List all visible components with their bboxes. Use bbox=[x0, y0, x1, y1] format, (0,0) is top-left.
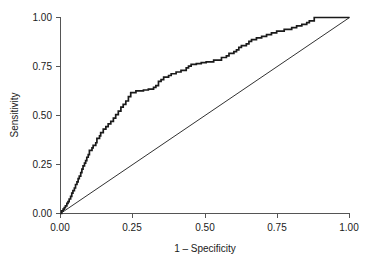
y-tick-label: 0.00 bbox=[33, 208, 53, 219]
y-tick-label: 0.75 bbox=[33, 61, 53, 72]
y-axis-ticks bbox=[56, 18, 60, 214]
x-tick-label: 0.00 bbox=[50, 222, 70, 233]
y-tick-label: 0.25 bbox=[33, 159, 53, 170]
x-tick-label: 0.25 bbox=[122, 222, 142, 233]
x-tick-label: 0.50 bbox=[195, 222, 215, 233]
y-tick-label: 0.50 bbox=[33, 110, 53, 121]
x-axis-title: 1 – Specificity bbox=[174, 243, 236, 254]
roc-chart-svg: 1.00 0.75 0.50 0.25 0.00 0.00 0.25 0.50 … bbox=[0, 0, 369, 266]
x-tick-label: 0.75 bbox=[267, 222, 287, 233]
y-axis-title: Sensitivity bbox=[9, 92, 20, 137]
y-tick-label: 1.00 bbox=[33, 12, 53, 23]
y-axis-tick-labels: 1.00 0.75 0.50 0.25 0.00 bbox=[33, 12, 53, 219]
x-axis-tick-labels: 0.00 0.25 0.50 0.75 1.00 bbox=[50, 222, 359, 233]
reference-diagonal-line bbox=[61, 18, 350, 214]
x-tick-label: 1.00 bbox=[339, 222, 359, 233]
roc-chart-figure: 1.00 0.75 0.50 0.25 0.00 0.00 0.25 0.50 … bbox=[0, 0, 369, 266]
